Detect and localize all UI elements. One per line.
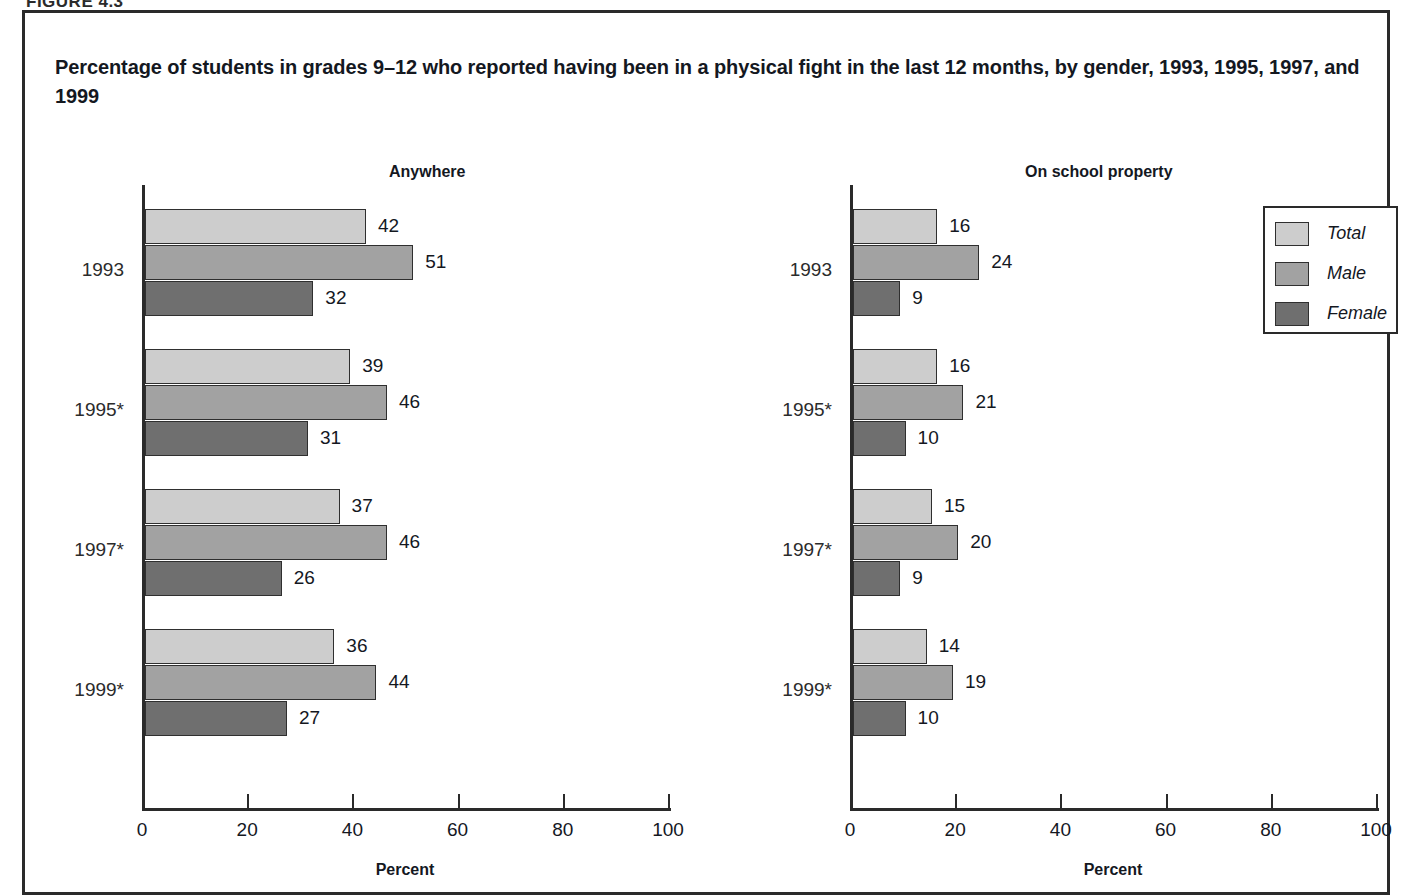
bar-row: 51 [145, 245, 671, 280]
x-axis-tick-label: 100 [1360, 819, 1392, 841]
bar-row: 21 [853, 385, 1379, 420]
bar-value-label: 31 [320, 427, 341, 449]
bar-female[interactable] [145, 561, 282, 596]
bar-value-label: 9 [912, 287, 923, 309]
x-axis-tick-label: 60 [447, 819, 468, 841]
x-axis-tick [458, 794, 460, 809]
bar-value-label: 20 [970, 531, 991, 553]
bar-value-label: 10 [918, 427, 939, 449]
page-title: Percentage of students in grades 9–12 wh… [55, 53, 1365, 111]
bar-value-label: 37 [352, 495, 373, 517]
bar-male[interactable] [853, 385, 963, 420]
bar-value-label: 26 [294, 567, 315, 589]
bar-female[interactable] [853, 421, 906, 456]
bar-female[interactable] [853, 701, 906, 736]
x-axis-tick [1376, 794, 1378, 809]
bar-total[interactable] [145, 489, 340, 524]
bar-value-label: 16 [949, 355, 970, 377]
bar-group: 1999*141910 [850, 629, 1376, 736]
bar-value-label: 46 [399, 531, 420, 553]
bar-value-label: 44 [388, 671, 409, 693]
bar-value-label: 19 [965, 671, 986, 693]
x-axis-tick-label: 40 [1050, 819, 1071, 841]
bar-male[interactable] [145, 665, 376, 700]
bar-total[interactable] [853, 629, 927, 664]
x-axis-tick [142, 794, 144, 809]
x-axis-tick-label: 60 [1155, 819, 1176, 841]
x-axis-tick [1060, 794, 1062, 809]
x-axis-tick [668, 794, 670, 809]
bar-female[interactable] [853, 561, 900, 596]
legend-swatch-icon [1275, 302, 1309, 326]
bar-value-label: 24 [991, 251, 1012, 273]
bar-group: 1995*162110 [850, 349, 1376, 456]
bar-female[interactable] [145, 701, 287, 736]
bar-total[interactable] [145, 349, 350, 384]
bar-value-label: 14 [939, 635, 960, 657]
legend-item-male[interactable]: Male [1275, 262, 1393, 292]
bar-value-label: 10 [918, 707, 939, 729]
bar-female[interactable] [145, 281, 313, 316]
bar-total[interactable] [853, 349, 937, 384]
bar-female[interactable] [853, 281, 900, 316]
x-axis-tick [247, 794, 249, 809]
x-axis-tick [352, 794, 354, 809]
x-axis-tick-label: 40 [342, 819, 363, 841]
bar-value-label: 51 [425, 251, 446, 273]
bar-group: 1999*364427 [142, 629, 668, 736]
bar-row: 39 [145, 349, 671, 384]
bar-group-label: 1999* [74, 679, 124, 701]
bar-male[interactable] [145, 385, 387, 420]
figure-frame: Percentage of students in grades 9–12 wh… [22, 10, 1390, 895]
legend-swatch-icon [1275, 222, 1309, 246]
legend-item-total[interactable]: Total [1275, 222, 1393, 252]
x-axis-tick-label: 20 [945, 819, 966, 841]
bar-female[interactable] [145, 421, 308, 456]
bar-row: 46 [145, 385, 671, 420]
bar-row: 15 [853, 489, 1379, 524]
bar-male[interactable] [145, 245, 413, 280]
x-axis-tick-label: 100 [652, 819, 684, 841]
bar-row: 27 [145, 701, 671, 736]
bar-value-label: 15 [944, 495, 965, 517]
bar-group-label: 1995* [74, 399, 124, 421]
bar-male[interactable] [145, 525, 387, 560]
x-axis-tick [955, 794, 957, 809]
bar-row: 9 [853, 561, 1379, 596]
bar-row: 10 [853, 421, 1379, 456]
bar-row: 20 [853, 525, 1379, 560]
legend-label: Male [1327, 263, 1366, 284]
bar-row: 44 [145, 665, 671, 700]
bar-value-label: 21 [975, 391, 996, 413]
bar-row: 14 [853, 629, 1379, 664]
bar-total[interactable] [853, 209, 937, 244]
x-axis-tick-label: 80 [552, 819, 573, 841]
bar-row: 36 [145, 629, 671, 664]
bar-row: 26 [145, 561, 671, 596]
bar-row: 19 [853, 665, 1379, 700]
bar-total[interactable] [145, 629, 334, 664]
bar-row: 32 [145, 281, 671, 316]
bar-value-label: 32 [325, 287, 346, 309]
bar-group: 1993425132 [142, 209, 668, 316]
x-axis-tick-label: 20 [237, 819, 258, 841]
bar-group-label: 1995* [782, 399, 832, 421]
x-axis-tick [1271, 794, 1273, 809]
bar-male[interactable] [853, 525, 958, 560]
bar-row: 42 [145, 209, 671, 244]
legend-item-female[interactable]: Female [1275, 302, 1393, 332]
panel-heading-on-school-property: On school property [1025, 163, 1173, 181]
x-axis-caption: Percent [1084, 861, 1143, 879]
x-axis-line [850, 808, 1379, 811]
legend-swatch-icon [1275, 262, 1309, 286]
bar-male[interactable] [853, 665, 953, 700]
x-axis-caption: Percent [376, 861, 435, 879]
bar-total[interactable] [145, 209, 366, 244]
bar-group: 1997*374626 [142, 489, 668, 596]
bar-total[interactable] [853, 489, 932, 524]
bar-row: 37 [145, 489, 671, 524]
bar-male[interactable] [853, 245, 979, 280]
bar-group: 1997*15209 [850, 489, 1376, 596]
bar-group-label: 1993 [790, 259, 832, 281]
